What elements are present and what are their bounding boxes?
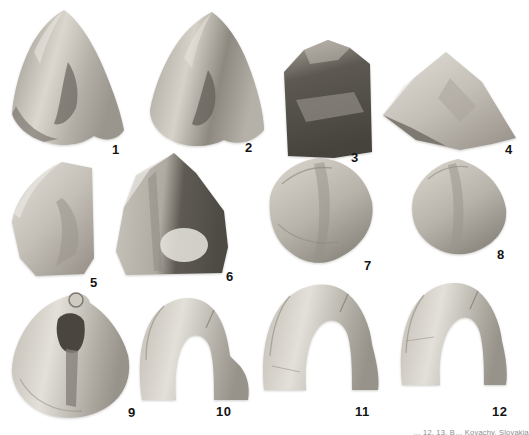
specimen-9-photo bbox=[6, 289, 136, 423]
specimen-5-photo bbox=[6, 158, 98, 280]
specimen-2-number: 2 bbox=[245, 141, 253, 154]
specimen-11-photo bbox=[260, 280, 394, 392]
specimen-4-number: 4 bbox=[505, 143, 513, 156]
specimen-3-photo bbox=[276, 38, 376, 160]
specimen-9-number: 9 bbox=[128, 406, 136, 419]
specimen-2 bbox=[146, 10, 268, 150]
specimen-7-photo bbox=[262, 154, 378, 268]
specimen-7-number: 7 bbox=[364, 259, 372, 272]
specimen-4 bbox=[380, 48, 518, 152]
specimen-1-photo bbox=[6, 8, 130, 150]
specimen-8-number: 8 bbox=[497, 248, 505, 261]
specimen-11-number: 11 bbox=[355, 405, 370, 418]
specimen-8-photo bbox=[404, 157, 514, 259]
specimen-7 bbox=[262, 154, 378, 268]
specimen-12-number: 12 bbox=[492, 405, 507, 418]
plate-caption: … 12, 13. B… Kovachy, Slovakia bbox=[100, 428, 529, 435]
specimen-6-photo bbox=[110, 151, 234, 279]
specimen-6-number: 6 bbox=[226, 270, 234, 283]
specimen-1 bbox=[6, 8, 130, 150]
specimen-12-photo bbox=[398, 279, 520, 387]
fossil-plate: 1 2 3 4 5 bbox=[0, 0, 529, 435]
specimen-2-photo bbox=[146, 10, 268, 150]
specimen-9 bbox=[6, 289, 136, 423]
specimen-12 bbox=[398, 279, 520, 387]
specimen-5-number: 5 bbox=[90, 276, 98, 289]
specimen-10-photo bbox=[136, 294, 254, 404]
specimen-3 bbox=[276, 38, 376, 160]
specimen-4-photo bbox=[380, 48, 518, 152]
specimen-11 bbox=[260, 280, 394, 392]
specimen-10 bbox=[136, 294, 254, 404]
specimen-8 bbox=[404, 157, 514, 259]
specimen-10-number: 10 bbox=[216, 405, 231, 418]
specimen-6 bbox=[110, 151, 234, 279]
specimen-5 bbox=[6, 158, 98, 280]
